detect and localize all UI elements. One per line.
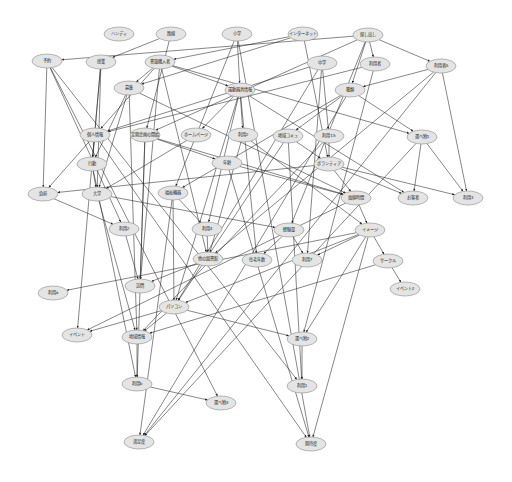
graph-node[interactable]: 利用b	[122, 377, 152, 391]
node-label: 授業	[97, 58, 106, 65]
graph-node[interactable]: 募集	[114, 81, 144, 95]
graph-node[interactable]: パソコン	[159, 300, 189, 314]
node-label: ボランティア	[317, 160, 341, 167]
graph-node[interactable]: 訪問	[125, 279, 155, 293]
graph-node[interactable]: サークル	[373, 254, 403, 268]
edge	[207, 236, 208, 252]
node-label: 地域情報	[129, 333, 146, 340]
edge	[251, 141, 362, 224]
node-label: 大学	[93, 190, 101, 197]
graph-node[interactable]: 年齢	[212, 156, 242, 170]
edge	[101, 68, 154, 128]
graph-node[interactable]: 運動器具情報	[225, 83, 255, 97]
graph-node[interactable]: 満足度	[124, 435, 154, 449]
edge	[323, 70, 329, 129]
graph-node[interactable]: 利用2	[228, 128, 258, 142]
graph-node[interactable]: 予約	[32, 54, 62, 68]
graph-node[interactable]: 負担	[28, 187, 58, 201]
node-label: 利用2	[119, 225, 130, 232]
graph-node[interactable]: 個人情報	[80, 128, 110, 142]
graph-node[interactable]: 種類	[335, 83, 365, 97]
graph-node[interactable]: イメージ	[355, 223, 385, 237]
graph-node[interactable]: 選べ物3	[206, 396, 236, 410]
node-label: 利用1	[297, 382, 308, 389]
edge	[93, 171, 96, 187]
node-label: 選べ物2	[295, 335, 310, 342]
graph-node[interactable]: 経験量	[274, 223, 304, 237]
node-label: 地域コミュ	[278, 132, 298, 138]
edge	[144, 313, 166, 331]
graph-node[interactable]: 他の図書館	[193, 252, 223, 266]
node-label: 個人情報	[87, 131, 104, 138]
graph-node[interactable]: イベント	[62, 328, 92, 342]
graph-node[interactable]: 利用3	[453, 191, 483, 205]
node-label: 運動器具情報	[228, 86, 253, 93]
graph-node[interactable]: 書籍購入者	[145, 55, 175, 69]
graph-node[interactable]: 利用2	[109, 222, 139, 236]
graph-node[interactable]: 小学	[222, 27, 252, 41]
graph-node[interactable]: 利用者A	[426, 59, 456, 73]
graph-node[interactable]: 利用a	[38, 286, 68, 300]
edge	[392, 268, 401, 283]
graph-canvas: ハンディ路線小学インターネット探し出し予約授業書籍購入者中学利用者利用者A募集運…	[0, 0, 512, 482]
node-label: 利用3	[463, 194, 474, 201]
graph-node[interactable]: 地域コミュ	[273, 129, 303, 143]
graph-node[interactable]: 探し出し	[353, 28, 383, 42]
node-label: 利用4	[202, 225, 213, 232]
node-label: 満足度	[133, 438, 146, 445]
edge	[317, 235, 359, 255]
graph-node[interactable]: 利用7	[292, 253, 322, 267]
node-label: 経験量	[283, 226, 295, 233]
graph-node[interactable]: ホームページ	[181, 128, 211, 142]
graph-node[interactable]: 中学	[307, 56, 337, 70]
node-label: インターネット	[289, 30, 317, 37]
node-label: パソコン	[166, 304, 182, 309]
graph-node[interactable]: インターネット	[288, 27, 318, 41]
edge	[150, 387, 207, 400]
graph-node[interactable]: イベント2	[390, 282, 420, 296]
graph-node[interactable]: 行動	[77, 157, 107, 171]
graph-node[interactable]: 大学	[82, 187, 112, 201]
node-label: 行動	[88, 160, 96, 167]
edge	[108, 67, 362, 131]
graph-node[interactable]: ハンディ	[104, 27, 134, 41]
edge	[185, 235, 358, 303]
node-label: 利用7	[302, 256, 313, 263]
node-label: 書籍購入者	[150, 58, 170, 65]
edge	[107, 67, 309, 131]
graph-node[interactable]: 利用1	[287, 379, 317, 393]
node-label: 価値時間	[348, 194, 364, 201]
graph-node[interactable]: 地域情報	[122, 330, 152, 344]
graph-node[interactable]: 利用15	[314, 129, 344, 143]
graph-node[interactable]: お客者	[398, 191, 428, 205]
edge	[187, 310, 289, 335]
node-label: イベント2	[396, 286, 415, 291]
node-label: 募集	[125, 84, 134, 91]
node-label: イメージ	[362, 227, 378, 232]
graph-node[interactable]: 選べ物1	[407, 130, 437, 144]
graph-node[interactable]: 価値時間	[341, 191, 371, 205]
graph-node[interactable]: 福祉機器	[158, 186, 188, 200]
node-label: 年齢	[223, 159, 232, 166]
node-label: 利用2	[238, 131, 249, 138]
node-label: イベント	[69, 332, 85, 337]
graph-node[interactable]: 利用4	[192, 222, 222, 236]
edges-layer	[43, 36, 466, 437]
edge	[306, 237, 366, 333]
graph-node[interactable]: 期待度	[296, 437, 326, 451]
edge	[111, 197, 275, 228]
edge	[173, 66, 409, 134]
graph-node[interactable]: 定期企画の開始	[130, 128, 160, 142]
graph-node[interactable]: 利用者	[360, 57, 390, 71]
graph-node[interactable]: 選べ物2	[287, 332, 317, 346]
graph-node[interactable]: ボランティア	[314, 157, 344, 171]
graph-node[interactable]: 住宅年数	[242, 253, 272, 267]
edge	[157, 139, 215, 159]
node-label: 利用a	[48, 289, 59, 296]
edge	[379, 40, 430, 62]
graph-node[interactable]: 路線	[156, 27, 186, 41]
node-label: お客者	[407, 194, 419, 201]
node-label: 期待度	[305, 440, 318, 447]
graph-node[interactable]: 授業	[86, 55, 116, 69]
edge	[359, 205, 367, 223]
